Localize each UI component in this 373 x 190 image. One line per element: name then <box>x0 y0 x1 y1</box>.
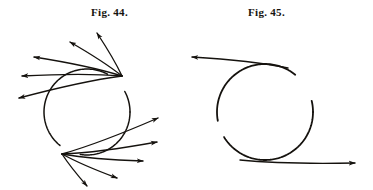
tangent-arrow <box>62 154 87 186</box>
tangent-arrow <box>240 160 355 163</box>
circle-arc-segment <box>312 101 313 112</box>
circle-arc-segment <box>224 112 313 160</box>
figures-artwork <box>0 0 373 190</box>
figure-45-caption: Fig. 45. <box>248 6 285 18</box>
tangent-arrow <box>192 57 288 68</box>
figure-44-drawing <box>19 33 158 186</box>
circle-arc-segment <box>217 64 295 121</box>
tangent-arrow <box>22 74 122 76</box>
figure-45-drawing <box>192 57 355 163</box>
figure-44-caption: Fig. 44. <box>91 6 128 18</box>
circle-arc-segment <box>125 91 130 112</box>
tangent-arrow <box>19 76 122 98</box>
figure-44-arrow-fans <box>19 33 158 186</box>
tangent-arrow <box>70 42 122 76</box>
figure-45-circle <box>217 64 313 160</box>
figure-plate: Fig. 44. Fig. 45. <box>0 0 373 190</box>
